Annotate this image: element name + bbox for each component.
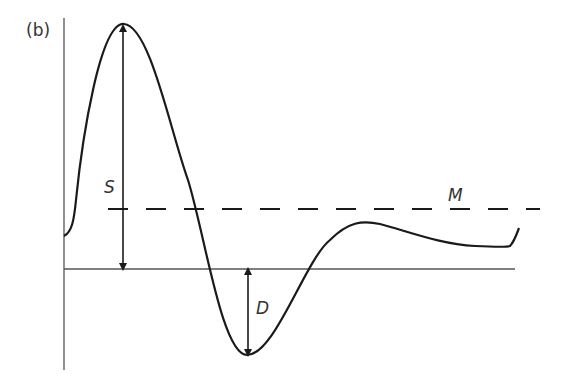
d-label: D <box>256 298 269 318</box>
panel-label: (b) <box>26 20 50 40</box>
waveform-diagram: (b) S D M <box>0 0 562 386</box>
m-label: M <box>448 185 463 205</box>
s-label: S <box>104 177 115 197</box>
